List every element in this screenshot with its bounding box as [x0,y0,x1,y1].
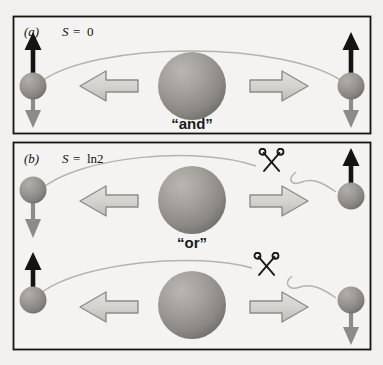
entanglement-entropy-figure: (a) S = 0 [0,0,383,365]
particle-sphere [338,183,365,210]
panel-a-center-sphere [158,52,226,120]
panel-a-entropy-equals: = [73,24,80,39]
panel-b-entropy-equals: = [73,151,80,166]
particle-sphere [20,177,47,204]
panel-a: (a) S = 0 [14,17,371,134]
particle-sphere [20,73,47,100]
panel-a-entropy-symbol: S [62,24,69,39]
particle-sphere [20,287,47,314]
panel-b-entropy-symbol: S [62,151,69,166]
panel-b: (b) S = ln2 [14,143,371,350]
panel-a-entropy-value: 0 [87,24,94,39]
panel-b-bottom-center-sphere [158,271,226,339]
panel-a-conjunction-label: “and” [171,115,213,132]
particle-sphere [338,287,365,314]
panel-b-label: (b) [24,151,39,166]
particle-sphere [338,73,365,100]
panel-b-conjunction-label: “or” [177,234,207,251]
panel-b-top-center-sphere [158,166,226,234]
